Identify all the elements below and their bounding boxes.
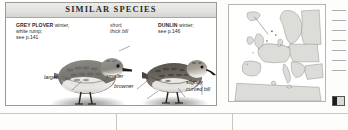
caption-dunlin-line2: see p.146 bbox=[158, 28, 194, 34]
annotation-browner: browner bbox=[114, 83, 133, 89]
annotation-larger: larger bbox=[44, 74, 58, 80]
caption-dunlin-line1-rest: winter; bbox=[178, 22, 194, 28]
caption-grey-plover-line3: see p.141 bbox=[16, 34, 69, 40]
page-rule-vertical-1 bbox=[116, 113, 117, 130]
annotation-curved-bill: slightly curved bill bbox=[186, 79, 216, 92]
europe-distribution-map bbox=[229, 5, 325, 101]
field-guide-page: SIMILAR SPECIES bbox=[0, 0, 348, 130]
caption-dunlin: DUNLIN winter; see p.146 bbox=[158, 22, 194, 34]
legend-swatch bbox=[332, 96, 345, 106]
caption-bill-note-line2: thick bill bbox=[110, 28, 128, 34]
page-text-column-cropped bbox=[330, 4, 348, 114]
caption-dunlin-species: DUNLIN bbox=[158, 22, 178, 28]
page-rule-horizontal bbox=[0, 113, 348, 114]
page-rule-vertical-2 bbox=[232, 113, 233, 130]
annotation-smaller: smaller bbox=[106, 73, 123, 79]
caption-grey-plover: GREY PLOVER winter, white rump; see p.14… bbox=[16, 22, 69, 41]
caption-grey-plover-species: GREY PLOVER bbox=[16, 22, 53, 28]
similar-species-box: SIMILAR SPECIES bbox=[5, 2, 217, 106]
page-title: SIMILAR SPECIES bbox=[6, 4, 216, 14]
caption-bill-note: short, thick bill bbox=[110, 22, 128, 34]
distribution-map-panel bbox=[228, 4, 326, 102]
caption-grey-plover-line1-rest: winter, bbox=[53, 22, 69, 28]
